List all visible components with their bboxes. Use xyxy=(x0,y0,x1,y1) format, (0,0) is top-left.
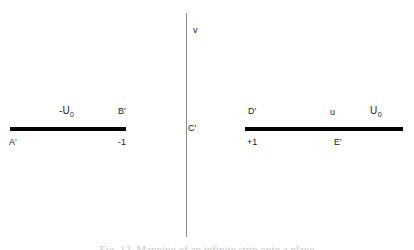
figure-caption: Fig. 12. Mapping of an infinite strip on… xyxy=(0,243,414,250)
right-cut-left-endpoint-value-plus-one: +1 xyxy=(247,137,257,147)
left-cut-upper-value-label: -U0 xyxy=(59,105,74,116)
u-axis-label: u xyxy=(330,107,335,117)
left-cut-upper-value-text: -U xyxy=(59,105,70,116)
left-cut-right-endpoint-label-b-prime: B' xyxy=(118,106,126,116)
left-cut-right-endpoint-value-minus-one: -1 xyxy=(118,137,126,147)
uv-plane-figure: v C' -U0 B' A' -1 D' u U0 +1 E' Fig. 12.… xyxy=(0,0,414,250)
right-cut-upper-value-subscript: 0 xyxy=(378,111,382,118)
left-branch-cut-bar xyxy=(10,127,126,131)
left-cut-upper-value-subscript: 0 xyxy=(70,111,74,118)
right-cut-upper-value-text: U xyxy=(370,105,377,116)
v-axis-line xyxy=(186,13,187,237)
right-cut-endpoint-label-e-prime: E' xyxy=(334,137,342,147)
right-cut-upper-value-label: U0 xyxy=(370,105,381,116)
left-cut-left-endpoint-label-a-prime: A' xyxy=(9,137,17,147)
v-axis-label: v xyxy=(193,25,198,35)
origin-label-c-prime: C' xyxy=(188,123,196,133)
right-cut-left-endpoint-label-d-prime: D' xyxy=(248,106,256,116)
right-branch-cut-bar xyxy=(245,127,403,131)
